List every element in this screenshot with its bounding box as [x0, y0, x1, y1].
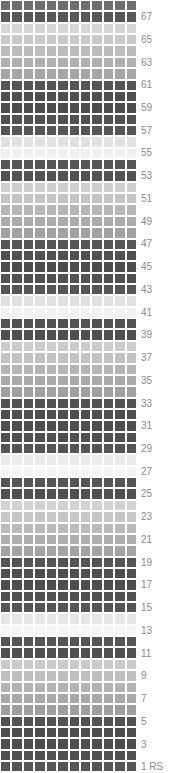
chart-cell[interactable] [91, 216, 102, 227]
chart-cell[interactable] [0, 750, 11, 761]
chart-cell[interactable] [57, 386, 68, 397]
chart-cell[interactable] [0, 477, 11, 488]
chart-cell[interactable] [126, 68, 137, 79]
chart-cell[interactable] [126, 34, 137, 45]
chart-cell[interactable] [103, 409, 114, 420]
chart-cell[interactable] [80, 318, 91, 329]
chart-cell[interactable] [69, 454, 80, 465]
chart-cell[interactable] [0, 261, 11, 272]
chart-cell[interactable] [103, 34, 114, 45]
chart-cell[interactable] [34, 454, 45, 465]
chart-cell[interactable] [34, 636, 45, 647]
chart-cell[interactable] [91, 102, 102, 113]
chart-cell[interactable] [126, 364, 137, 375]
chart-cell[interactable] [23, 364, 34, 375]
chart-cell[interactable] [34, 602, 45, 613]
chart-cell[interactable] [69, 534, 80, 545]
chart-cell[interactable] [46, 443, 57, 454]
chart-cell[interactable] [0, 523, 11, 534]
chart-cell[interactable] [46, 239, 57, 250]
chart-cell[interactable] [114, 659, 125, 670]
chart-cell[interactable] [34, 443, 45, 454]
chart-cell[interactable] [11, 364, 22, 375]
chart-cell[interactable] [103, 375, 114, 386]
chart-cell[interactable] [46, 295, 57, 306]
chart-cell[interactable] [34, 409, 45, 420]
chart-cell[interactable] [34, 420, 45, 431]
chart-cell[interactable] [57, 500, 68, 511]
chart-cell[interactable] [114, 307, 125, 318]
chart-cell[interactable] [0, 284, 11, 295]
chart-cell[interactable] [57, 204, 68, 215]
chart-cell[interactable] [11, 23, 22, 34]
chart-cell[interactable] [0, 591, 11, 602]
chart-cell[interactable] [34, 170, 45, 181]
chart-cell[interactable] [34, 159, 45, 170]
chart-cell[interactable] [34, 34, 45, 45]
chart-cell[interactable] [114, 182, 125, 193]
chart-cell[interactable] [103, 557, 114, 568]
chart-cell[interactable] [11, 432, 22, 443]
chart-cell[interactable] [11, 557, 22, 568]
chart-cell[interactable] [69, 34, 80, 45]
chart-cell[interactable] [69, 568, 80, 579]
chart-cell[interactable] [114, 250, 125, 261]
chart-cell[interactable] [126, 625, 137, 636]
chart-cell[interactable] [23, 148, 34, 159]
chart-cell[interactable] [114, 341, 125, 352]
chart-cell[interactable] [46, 625, 57, 636]
chart-cell[interactable] [91, 602, 102, 613]
chart-cell[interactable] [126, 534, 137, 545]
chart-cell[interactable] [23, 159, 34, 170]
chart-cell[interactable] [91, 0, 102, 11]
chart-cell[interactable] [80, 511, 91, 522]
chart-cell[interactable] [0, 23, 11, 34]
chart-cell[interactable] [57, 466, 68, 477]
chart-cell[interactable] [57, 636, 68, 647]
chart-cell[interactable] [126, 341, 137, 352]
chart-cell[interactable] [11, 204, 22, 215]
chart-cell[interactable] [126, 454, 137, 465]
chart-cell[interactable] [23, 432, 34, 443]
chart-cell[interactable] [23, 750, 34, 761]
chart-cell[interactable] [11, 375, 22, 386]
chart-cell[interactable] [91, 114, 102, 125]
chart-cell[interactable] [0, 34, 11, 45]
chart-cell[interactable] [80, 682, 91, 693]
chart-cell[interactable] [11, 386, 22, 397]
chart-row[interactable] [0, 398, 137, 409]
chart-cell[interactable] [46, 738, 57, 749]
chart-cell[interactable] [11, 409, 22, 420]
chart-cell[interactable] [34, 386, 45, 397]
chart-cell[interactable] [126, 488, 137, 499]
chart-cell[interactable] [11, 216, 22, 227]
chart-cell[interactable] [46, 568, 57, 579]
chart-cell[interactable] [0, 432, 11, 443]
chart-cell[interactable] [11, 45, 22, 56]
chart-cell[interactable] [80, 261, 91, 272]
chart-cell[interactable] [0, 636, 11, 647]
chart-cell[interactable] [91, 80, 102, 91]
chart-cell[interactable] [80, 91, 91, 102]
chart-cell[interactable] [91, 204, 102, 215]
chart-cell[interactable] [91, 591, 102, 602]
chart-cell[interactable] [46, 68, 57, 79]
chart-cell[interactable] [69, 636, 80, 647]
chart-cell[interactable] [11, 500, 22, 511]
chart-cell[interactable] [103, 23, 114, 34]
chart-cell[interactable] [46, 375, 57, 386]
chart-cell[interactable] [80, 23, 91, 34]
chart-cell[interactable] [69, 670, 80, 681]
chart-row[interactable] [0, 693, 137, 704]
chart-cell[interactable] [114, 364, 125, 375]
chart-cell[interactable] [80, 477, 91, 488]
chart-cell[interactable] [57, 670, 68, 681]
chart-cell[interactable] [34, 557, 45, 568]
chart-cell[interactable] [126, 307, 137, 318]
chart-cell[interactable] [69, 545, 80, 556]
chart-cell[interactable] [11, 602, 22, 613]
chart-cell[interactable] [11, 613, 22, 624]
chart-cell[interactable] [103, 159, 114, 170]
chart-cell[interactable] [91, 534, 102, 545]
chart-cell[interactable] [34, 148, 45, 159]
